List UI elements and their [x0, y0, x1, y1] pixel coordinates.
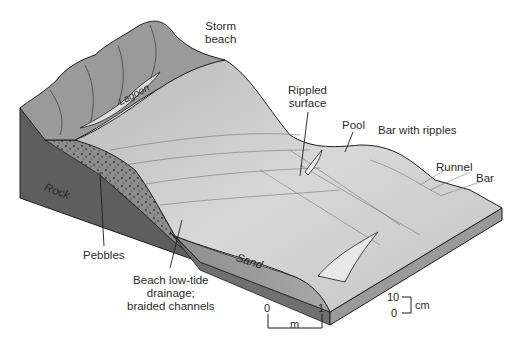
scale-h-unit: m — [290, 318, 299, 331]
label-bar: Bar — [476, 172, 494, 185]
label-drainage-line2: drainage; — [127, 287, 215, 300]
label-beach-drainage: Beach low-tide drainage; braided channel… — [127, 274, 215, 313]
scale-h-end: 1 — [318, 302, 324, 315]
label-storm-beach-line1: Storm — [205, 20, 236, 33]
label-storm-beach-line2: beach — [205, 33, 236, 46]
scale-v-bottom: 0 — [391, 307, 397, 320]
label-storm-beach: Storm beach — [205, 20, 236, 46]
label-drainage-line3: braided channels — [127, 300, 215, 313]
label-runnel: Runnel — [436, 161, 472, 174]
label-drainage-line1: Beach low-tide — [127, 274, 215, 287]
scale-v-unit: cm — [415, 299, 430, 312]
label-rippled-line1: Rippled — [288, 84, 327, 97]
label-bar-with-ripples: Bar with ripples — [378, 124, 457, 137]
label-rippled-surface: Rippled surface — [288, 84, 327, 110]
vertical-scale-bar — [402, 297, 411, 313]
scale-h-start: 0 — [264, 302, 270, 315]
beach-block-diagram — [0, 0, 511, 341]
label-pool: Pool — [342, 119, 365, 132]
label-rippled-line2: surface — [288, 97, 327, 110]
label-pebbles: Pebbles — [83, 249, 125, 262]
scale-v-top: 10 — [387, 291, 399, 304]
